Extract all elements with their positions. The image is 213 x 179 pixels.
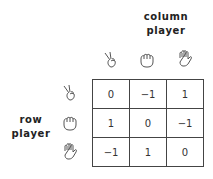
matrix-cell: −1 (167, 109, 204, 138)
column-label-line2: player (126, 24, 206, 38)
fist-hand-icon (138, 51, 156, 69)
matrix-cell: 1 (93, 109, 130, 138)
scissors-hand-icon (102, 51, 120, 69)
fist-hand-icon (61, 114, 79, 132)
row-label-line2: player (6, 127, 56, 141)
matrix-cell: 0 (130, 109, 167, 138)
column-player-label: column player (126, 10, 206, 38)
matrix-row-scissors: 0 −1 1 (93, 80, 204, 109)
matrix-cell: 0 (93, 80, 130, 109)
matrix-row-paper: −1 1 0 (93, 138, 204, 167)
open-hand-icon (61, 142, 79, 160)
open-hand-icon (176, 49, 194, 67)
matrix-cell: −1 (93, 138, 130, 167)
column-label-line1: column (126, 10, 206, 24)
matrix-cell: 0 (167, 138, 204, 167)
matrix-cell: 1 (167, 80, 204, 109)
payoff-matrix: 0 −1 1 1 0 −1 −1 1 0 (92, 79, 204, 167)
matrix-cell: −1 (130, 80, 167, 109)
row-player-label: row player (6, 113, 56, 141)
row-label-line1: row (6, 113, 56, 127)
matrix-row-rock: 1 0 −1 (93, 109, 204, 138)
scissors-hand-icon (61, 84, 79, 102)
matrix-cell: 1 (130, 138, 167, 167)
